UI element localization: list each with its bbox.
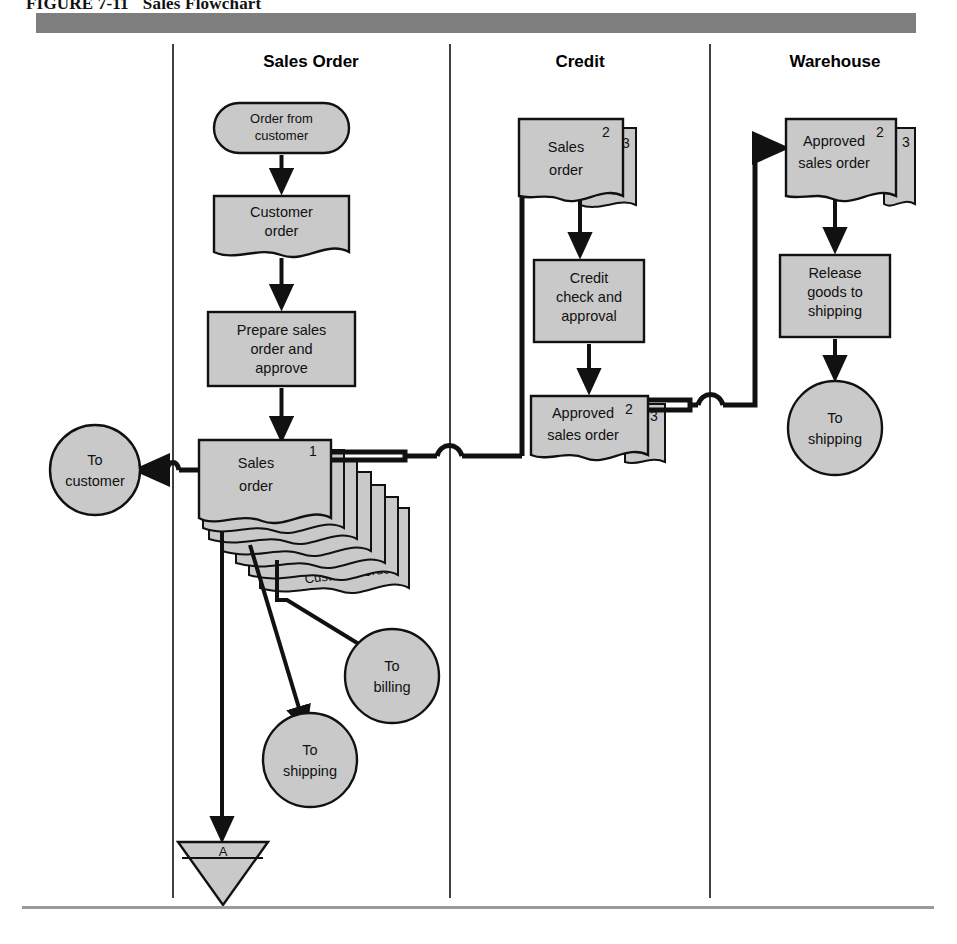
node-credit-sales-order: 3 2 Sales order (519, 119, 636, 207)
node-credit-check-line1: Credit (570, 270, 609, 286)
wh-approved-copy-2: 2 (876, 124, 884, 140)
node-to-shipping-sales: To shipping (263, 713, 357, 807)
node-to-shipping-wh-line2: shipping (808, 431, 862, 447)
flowchart-canvas: Order from customer Customer order Prepa… (0, 0, 957, 944)
node-customer-order-line2: order (265, 223, 299, 239)
node-to-shipping-wh-line1: To (827, 410, 842, 426)
node-prepare-line2: order and (250, 341, 312, 357)
node-order-from-customer-line1: Order from (250, 111, 313, 126)
node-wh-approved-line2: sales order (798, 155, 870, 171)
node-order-from-customer: Order from customer (214, 103, 349, 153)
stack-copy-number-1: 1 (309, 443, 317, 459)
node-order-from-customer-line2: customer (255, 128, 309, 143)
node-file-a-label: A (219, 844, 228, 859)
node-release-line1: Release (808, 265, 861, 281)
node-prepare-line3: approve (255, 360, 307, 376)
node-to-customer: To customer (50, 425, 140, 515)
node-to-shipping-sales-line1: To (302, 742, 317, 758)
node-credit-check-line3: approval (561, 308, 617, 324)
figure-page: FIGURE 7-11Sales Flowchart Sales Order C… (0, 0, 957, 944)
node-credit-approved-line2: sales order (547, 427, 619, 443)
node-warehouse-approved-sales-order: 3 2 Approved sales order (786, 119, 915, 206)
node-sales-order-stack-line2: order (239, 478, 273, 494)
node-release-line3: shipping (808, 303, 862, 319)
node-prepare-line1: Prepare sales (237, 322, 326, 338)
line-credit-to-warehouse (690, 148, 782, 405)
node-credit-sales-order-line2: order (549, 162, 583, 178)
credit-so-copy-2: 2 (602, 124, 610, 140)
node-release-line2: goods to (807, 284, 863, 300)
node-to-shipping-warehouse: To shipping (788, 381, 882, 475)
node-sales-order-stack: Customer order 6 5 4 3 2 1 Sales order (199, 440, 409, 593)
node-wh-approved-line1: Approved (803, 133, 865, 149)
node-customer-order-line1: Customer (250, 204, 313, 220)
node-prepare-sales-order: Prepare sales order and approve (208, 312, 355, 386)
node-sales-order-stack-line1: Sales (238, 455, 274, 471)
node-credit-approved-sales-order: 3 2 Approved sales order (531, 396, 665, 463)
credit-approved-copy-2: 2 (625, 401, 633, 417)
node-credit-check: Credit check and approval (534, 260, 644, 342)
wh-approved-copy-3: 3 (902, 134, 910, 150)
bottom-rule (22, 906, 934, 909)
node-to-billing: To billing (345, 629, 439, 723)
node-to-shipping-sales-line2: shipping (283, 763, 337, 779)
node-credit-sales-order-line1: Sales (548, 139, 584, 155)
node-credit-approved-line1: Approved (552, 405, 614, 421)
node-to-billing-line1: To (384, 658, 399, 674)
node-customer-order-document: Customer order (214, 196, 349, 257)
node-to-billing-line2: billing (373, 679, 410, 695)
node-credit-check-line2: check and (556, 289, 622, 305)
node-to-customer-line1: To (87, 452, 102, 468)
node-release-goods: Release goods to shipping (780, 255, 890, 337)
node-file-a: A (178, 842, 268, 905)
node-to-customer-line2: customer (65, 473, 125, 489)
